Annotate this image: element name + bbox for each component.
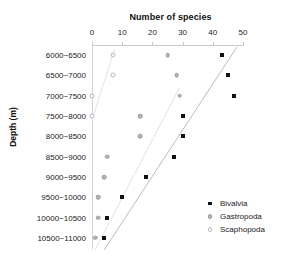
x-tick-label: 50 <box>231 28 255 37</box>
data-point-gastropoda <box>138 134 143 139</box>
data-point-gastropoda <box>93 236 98 241</box>
data-point-gastropoda <box>96 195 101 200</box>
x-tick-mark <box>243 42 244 45</box>
open-circle-icon <box>205 227 215 232</box>
x-tick-mark <box>213 42 214 45</box>
chart-title: Number of species <box>88 12 253 22</box>
scaphopoda-trend <box>92 49 115 120</box>
x-tick-label: 40 <box>201 28 225 37</box>
data-point-gastropoda <box>96 215 101 220</box>
y-tick-label: 8000~8500 <box>46 132 86 141</box>
x-tick-mark <box>122 42 123 45</box>
gastropoda-trend <box>95 88 180 250</box>
data-point-bivalvia <box>232 94 236 98</box>
x-tick-label: 20 <box>140 28 164 37</box>
data-point-gastropoda <box>105 154 110 159</box>
data-point-gastropoda <box>174 73 179 78</box>
data-point-bivalvia <box>102 236 106 240</box>
y-tick-label: 9500~10000 <box>41 193 86 202</box>
x-tick-mark <box>183 42 184 45</box>
data-point-scaphopoda <box>111 73 116 78</box>
y-tick-label: 6000~6500 <box>46 51 86 60</box>
data-point-bivalvia <box>172 155 176 159</box>
legend-item-label: Gastropoda <box>220 212 262 221</box>
x-tick-mark <box>92 42 93 45</box>
data-point-scaphopoda <box>90 93 95 98</box>
data-point-bivalvia <box>144 175 148 179</box>
data-point-scaphopoda <box>111 53 116 58</box>
legend-item-gastropoda[interactable]: Gastropoda <box>205 210 265 223</box>
data-point-gastropoda <box>165 53 170 58</box>
x-tick-label: 0 <box>80 28 104 37</box>
y-tick-label: 7000~7500 <box>46 91 86 100</box>
y-tick-label: 10000~10500 <box>37 213 86 222</box>
data-point-bivalvia <box>181 134 185 138</box>
x-tick-mark <box>152 42 153 45</box>
data-point-bivalvia <box>226 73 230 77</box>
data-point-bivalvia <box>120 195 124 199</box>
chart-figure: Number of species Depth (m) 01020304050 … <box>0 0 289 273</box>
legend-item-label: Bivalvia <box>220 199 248 208</box>
data-point-gastropoda <box>177 93 182 98</box>
y-tick-label: 10500~11000 <box>37 233 86 242</box>
x-tick-label: 30 <box>171 28 195 37</box>
y-tick-label: 7500~8000 <box>46 112 86 121</box>
legend-item-scaphopoda[interactable]: Scaphopoda <box>205 223 265 236</box>
filled-square-icon <box>205 202 215 206</box>
data-point-bivalvia <box>181 114 185 118</box>
legend-item-bivalvia[interactable]: Bivalvia <box>205 197 265 210</box>
data-point-gastropoda <box>102 175 107 180</box>
chart-legend: BivalviaGastropodaScaphopoda <box>205 197 265 236</box>
filled-circle-icon <box>205 214 215 219</box>
data-point-bivalvia <box>220 53 224 57</box>
data-point-bivalvia <box>105 216 109 220</box>
y-tick-label: 8500~9000 <box>46 152 86 161</box>
y-tick-label: 6500~7000 <box>46 71 86 80</box>
legend-item-label: Scaphopoda <box>220 225 265 234</box>
y-tick-label: 9000~9500 <box>46 172 86 181</box>
x-tick-label: 10 <box>110 28 134 37</box>
y-axis-label: Depth (m) <box>8 92 18 162</box>
data-point-gastropoda <box>138 114 143 119</box>
data-point-scaphopoda <box>90 114 95 119</box>
